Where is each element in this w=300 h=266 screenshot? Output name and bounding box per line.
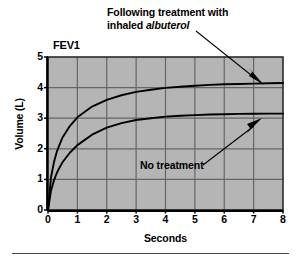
albuterol-annotation-line2-prefix: inhaled	[107, 19, 146, 31]
fev1-volume-time-chart	[0, 0, 300, 266]
x-tick-label: 5	[188, 213, 202, 225]
spirometry-figure: Following treatment with inhaled albuter…	[0, 0, 300, 266]
x-tick-label: 1	[70, 213, 84, 225]
y-tick-label: 1	[29, 172, 43, 184]
figure-footer-rule	[12, 253, 289, 254]
plot-area	[48, 57, 283, 210]
y-tick-label: 5	[29, 50, 43, 62]
x-tick-label: 3	[129, 213, 143, 225]
no-treatment-annotation: No treatment	[140, 159, 204, 171]
albuterol-annotation-drug-name: albuterol	[146, 19, 189, 31]
x-tick-label: 2	[100, 213, 114, 225]
x-tick-label: 8	[276, 213, 290, 225]
x-tick-label: 4	[159, 213, 173, 225]
albuterol-annotation-line1: Following treatment with	[107, 6, 228, 18]
x-tick-label: 0	[41, 213, 55, 225]
y-axis-label: Volume (L)	[13, 79, 25, 169]
albuterol-annotation: Following treatment with inhaled albuter…	[107, 6, 297, 32]
y-tick-label: 2	[29, 142, 43, 154]
y-tick-label: 4	[29, 81, 43, 93]
x-axis-label: Seconds	[48, 232, 283, 244]
y-tick-label: 3	[29, 111, 43, 123]
x-tick-label: 7	[247, 213, 261, 225]
x-tick-label: 6	[217, 213, 231, 225]
fev1-inset-title: FEV1	[53, 39, 80, 51]
